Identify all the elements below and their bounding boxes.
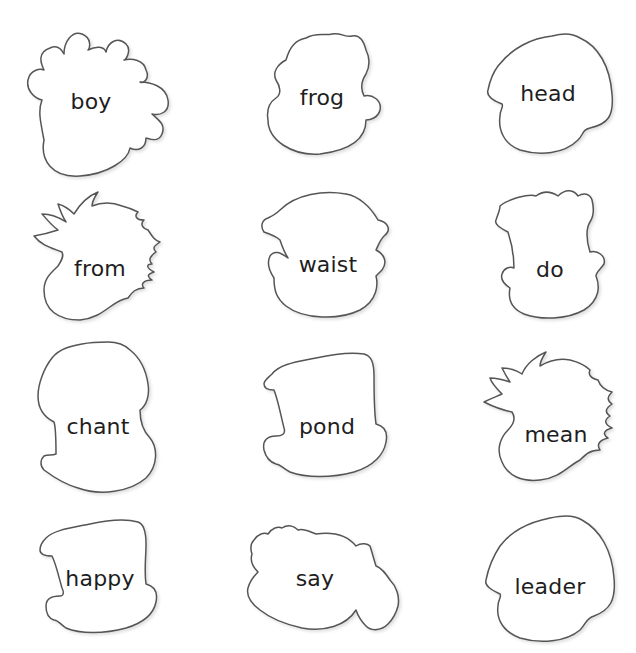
word-label: leader <box>515 574 586 599</box>
word-card-from: from <box>0 180 220 340</box>
word-label: head <box>520 81 576 106</box>
word-card-leader: leader <box>440 500 636 653</box>
word-card-head: head <box>440 20 636 190</box>
word-label: chant <box>66 414 129 439</box>
word-label: frog <box>300 85 345 110</box>
word-card-happy: happy <box>0 500 220 653</box>
word-label: from <box>74 256 126 281</box>
word-card-mean: mean <box>440 330 636 500</box>
word-card-frog: frog <box>220 20 420 190</box>
word-card-pond: pond <box>220 340 420 500</box>
word-card-say: say <box>220 500 420 653</box>
word-label: say <box>296 566 335 591</box>
word-label: happy <box>65 566 134 591</box>
word-label: mean <box>524 422 587 447</box>
word-label: waist <box>299 252 358 277</box>
word-card-waist: waist <box>220 180 420 340</box>
word-label: pond <box>299 414 355 439</box>
word-label: boy <box>70 89 111 114</box>
word-card-chant: chant <box>0 330 220 500</box>
word-card-do: do <box>440 180 636 340</box>
word-label: do <box>536 257 564 282</box>
spiky-hair-head-outline <box>440 330 636 500</box>
word-card-boy: boy <box>0 20 220 190</box>
